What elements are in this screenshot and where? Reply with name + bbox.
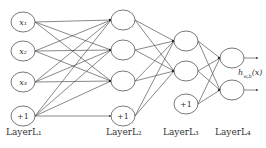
- neural-network-diagram: x₁ x₂ x₃ +1 +1 +1 hw,b(x) LayerL₁ LayerL…: [0, 0, 266, 148]
- node-l2-3: [111, 71, 135, 91]
- node-l2-1: [111, 10, 135, 30]
- nodes: [11, 10, 244, 126]
- node-label-l1-bias: +1: [17, 112, 29, 121]
- node-label-l3-bias: +1: [180, 100, 192, 109]
- node-l3-1: [174, 31, 198, 51]
- layer-label-l4: LayerL₄: [215, 127, 251, 137]
- node-label-l2-bias: +1: [117, 112, 129, 121]
- output-label-sub: w,b: [243, 73, 251, 79]
- layer-label-l3: LayerL₃: [163, 127, 199, 137]
- output-label-arg: (x): [252, 68, 263, 77]
- layer-label-l2: LayerL₂: [106, 127, 142, 137]
- node-l4-1: [220, 48, 244, 68]
- output-label: hw,b(x): [238, 68, 262, 79]
- node-label-x3: x₃: [19, 78, 27, 87]
- node-label-x1: x₁: [19, 18, 27, 27]
- node-label-x2: x₂: [19, 47, 27, 56]
- connections: [35, 20, 258, 116]
- layer-label-l1: LayerL₁: [6, 127, 42, 137]
- node-l4-2: [220, 80, 244, 100]
- node-l2-2: [111, 40, 135, 60]
- node-l3-2: [174, 61, 198, 81]
- network-graph: [0, 0, 266, 148]
